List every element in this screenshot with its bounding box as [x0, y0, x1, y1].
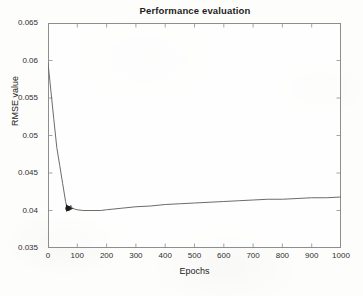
x-tick-label: 1000	[321, 252, 361, 260]
page-title: Performance evaluation	[48, 5, 342, 16]
axis-ticks	[48, 23, 341, 248]
x-axis-label: Epochs	[48, 266, 341, 276]
y-tick-label: 0.065	[0, 19, 38, 27]
data-series-line	[48, 63, 341, 211]
y-tick-label: 0.045	[0, 169, 38, 177]
y-tick-label: 0.04	[0, 207, 38, 215]
chart-canvas	[48, 23, 341, 248]
y-axis-label: RMSE value	[10, 61, 20, 141]
y-tick-label: 0.035	[0, 244, 38, 252]
chart-screenshot: Performance evaluation 0.065 0.06 0.055 …	[0, 0, 363, 296]
